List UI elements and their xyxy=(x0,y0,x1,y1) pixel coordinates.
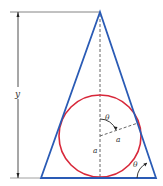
vertical-radius-label: a xyxy=(93,146,97,155)
height-label: y xyxy=(14,89,21,99)
arrow-up-icon xyxy=(17,12,20,17)
slant-radius-label: a xyxy=(116,135,120,144)
center-angle-label: θ xyxy=(105,113,110,122)
arrow-down-icon xyxy=(17,173,20,178)
diagram-canvas: y θ a a θ xyxy=(0,0,163,186)
base-angle-label: θ xyxy=(133,160,138,169)
